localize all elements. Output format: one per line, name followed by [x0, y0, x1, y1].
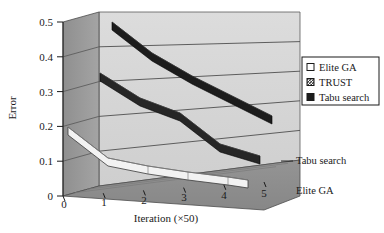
- y-axis-title: Error: [6, 96, 18, 120]
- legend-swatch-elite-ga: [307, 64, 314, 71]
- depth-label-tabu-search: Tabu search: [296, 155, 347, 166]
- legend-swatch-tabu-search: [307, 94, 314, 101]
- chart-figure: 0.5 0.4 0.3 0.2 0.1 0 Error 0 1 2 3: [0, 0, 384, 233]
- y-tick-label-0: 0.5: [39, 16, 53, 28]
- y-axis-ticks: [57, 22, 63, 196]
- side-wall: [63, 12, 99, 196]
- x-tick-label-3: 3: [181, 191, 187, 203]
- depth-label-elite-ga: Elite GA: [296, 185, 334, 196]
- x-tick-label-5: 5: [261, 187, 267, 199]
- legend-label-elite-ga: Elite GA: [319, 62, 357, 73]
- x-axis-title: Iteration (×50): [134, 212, 199, 225]
- legend-item-trust[interactable]: TRUST: [307, 77, 353, 88]
- y-axis: 0.5 0.4 0.3 0.2 0.1 0 Error: [6, 16, 63, 202]
- y-tick-label-1: 0.4: [39, 51, 53, 63]
- legend[interactable]: Elite GA TRUST Tabu search: [302, 57, 379, 105]
- y-tick-label-5: 0: [48, 190, 54, 202]
- y-tick-label-2: 0.3: [39, 86, 53, 98]
- y-tick-label-3: 0.2: [39, 120, 53, 132]
- y-tick-label-4: 0.1: [39, 155, 53, 167]
- legend-label-trust: TRUST: [319, 77, 353, 88]
- x-tick-label-0: 0: [61, 198, 67, 210]
- legend-swatch-trust: [307, 79, 314, 86]
- x-tick-label-4: 4: [221, 189, 227, 201]
- chart-canvas: 0.5 0.4 0.3 0.2 0.1 0 Error 0 1 2 3: [0, 0, 384, 233]
- x-tick-label-2: 2: [141, 194, 147, 206]
- x-tick-label-1: 1: [101, 196, 107, 208]
- legend-label-tabu-search: Tabu search: [319, 92, 370, 103]
- plot-area-walls: [63, 12, 300, 210]
